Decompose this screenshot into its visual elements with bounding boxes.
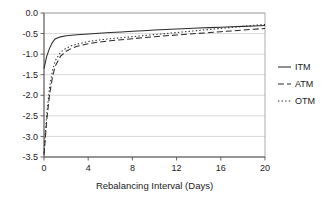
y-tick-label: -2.0 [22,90,38,100]
legend-label-otm: OTM [295,96,315,106]
y-tick-label: -1.0 [22,49,38,59]
y-tick-label: 0.0 [25,8,38,18]
x-tick-label: 20 [260,163,270,173]
x-tick-label: 0 [41,163,46,173]
y-tick-label: -2.5 [22,111,38,121]
x-tick-label: 16 [216,163,226,173]
x-tick-label: 12 [172,163,182,173]
y-tick-label: -3.0 [22,132,38,142]
chart-figure: 0.0-0.5-1.0-1.5-2.0-2.5-3.0-3.5 04812162… [0,0,334,198]
x-tick-label: 4 [86,163,91,173]
x-tick-label: 8 [130,163,135,173]
y-tick-label: -1.5 [22,70,38,80]
legend-label-atm: ATM [295,79,313,89]
legend-label-itm: ITM [295,62,311,72]
y-tick-label: -3.5 [22,152,38,162]
y-tick-label: -0.5 [22,29,38,39]
x-axis-title: Rebalancing Interval (Days) [96,180,213,191]
